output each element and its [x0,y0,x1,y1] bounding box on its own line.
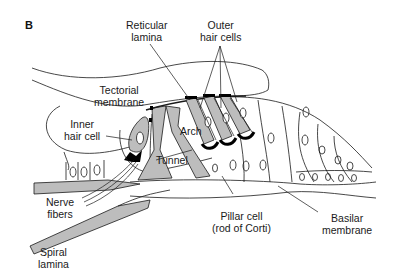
label-tectorial-membrane: Tectorial membrane [94,84,144,108]
label-outer-hair-cells: Outer hair cells [200,19,241,43]
panel-letter: B [25,19,33,31]
label-tunnel: Tunnel [156,154,188,166]
spiral-lamina-upper [34,180,140,194]
label-nerve-fibers: Nerve fibers [46,196,74,220]
cell-border [282,106,292,182]
label-reticular-lamina: Reticular lamina [126,19,167,43]
label-pillar-cell: Pillar cell (rod of Corti) [212,210,271,234]
tectorial-membrane-shape [32,61,269,90]
basilar-membrane-lower [130,192,376,198]
label-spiral-lamina: Spiral lamina [38,246,69,270]
label-arch: Arch [180,125,202,137]
outer-hair-cells-group [185,94,254,148]
label-basilar-membrane: Basilar membrane [322,212,372,236]
label-inner-hair-cell: Inner hair cell [64,118,100,142]
